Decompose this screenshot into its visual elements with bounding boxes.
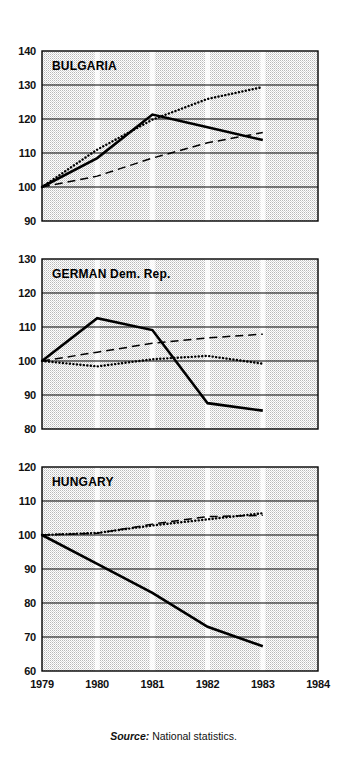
series-solid	[42, 115, 263, 187]
y-tick-label: 100	[8, 356, 36, 367]
series-dotted	[42, 87, 263, 187]
chart-panel-bulgaria	[0, 0, 347, 763]
panel-title: GERMAN Dem. Rep.	[52, 267, 171, 281]
y-tick-label: 110	[8, 496, 36, 507]
y-tick-label: 140	[8, 46, 36, 57]
x-tick-label: 1984	[298, 679, 338, 690]
y-tick-label: 130	[8, 254, 36, 265]
x-tick-label: 1983	[243, 679, 283, 690]
y-tick-label: 80	[8, 598, 36, 609]
figure-root: 90100110120130140BULGARIA809010011012013…	[0, 0, 347, 763]
y-tick-label: 120	[8, 288, 36, 299]
y-tick-label: 90	[8, 564, 36, 575]
x-tick-label: 1981	[132, 679, 172, 690]
series-dashed	[42, 334, 263, 361]
plot-canvas	[0, 0, 347, 763]
y-tick-label: 100	[8, 182, 36, 193]
y-tick-label: 90	[8, 216, 36, 227]
y-tick-label: 110	[8, 148, 36, 159]
panel-title: HUNGARY	[52, 475, 114, 489]
y-tick-label: 110	[8, 322, 36, 333]
source-note: Source: National statistics.	[0, 730, 347, 742]
series-solid	[42, 318, 263, 410]
x-tick-label: 1979	[22, 679, 62, 690]
y-tick-label: 60	[8, 666, 36, 677]
y-tick-label: 80	[8, 424, 36, 435]
y-tick-label: 100	[8, 530, 36, 541]
series-solid	[42, 535, 263, 646]
x-tick-label: 1982	[188, 679, 228, 690]
source-value: National statistics.	[149, 730, 237, 742]
series-dotted	[42, 513, 263, 535]
y-tick-label: 130	[8, 80, 36, 91]
series-dashed	[42, 515, 263, 535]
y-tick-label: 70	[8, 632, 36, 643]
source-label: Source:	[110, 730, 149, 742]
plot-canvas	[0, 0, 347, 763]
x-tick-label: 1980	[77, 679, 117, 690]
y-tick-label: 120	[8, 462, 36, 473]
plot-canvas	[0, 0, 347, 763]
y-tick-label: 90	[8, 390, 36, 401]
panel-title: BULGARIA	[52, 59, 117, 73]
series-dashed	[42, 133, 263, 187]
y-tick-label: 120	[8, 114, 36, 125]
series-dotted	[42, 356, 263, 367]
chart-panel-german-dem-rep	[0, 0, 347, 763]
chart-panel-hungary	[0, 0, 347, 763]
